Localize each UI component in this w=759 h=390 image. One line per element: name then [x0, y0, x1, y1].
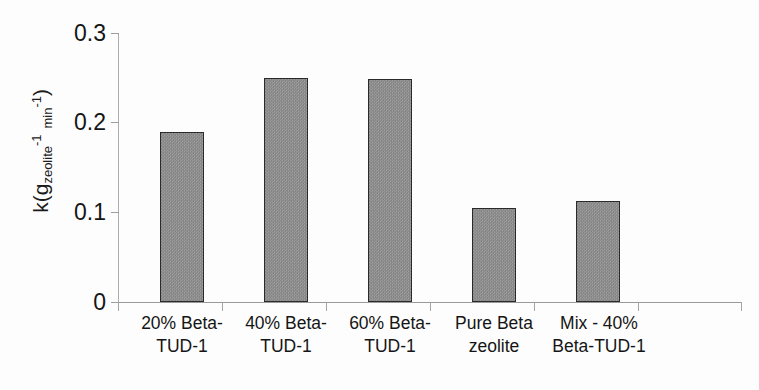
- y-axis-label-lead: k(g: [29, 184, 52, 213]
- x-category-label-0-line-1: TUD-1: [126, 335, 238, 358]
- y-tick-label-3: 0: [52, 289, 106, 316]
- x-tick-mark-0: [118, 302, 119, 311]
- x-tick-mark-6: [741, 302, 742, 311]
- x-category-label-1-line-0: 40% Beta-: [230, 312, 342, 335]
- y-axis-label-sup-neg1-a: -1: [29, 135, 44, 147]
- x-tick-mark-3: [430, 302, 431, 311]
- x-category-label-2-line-1: TUD-1: [334, 335, 446, 358]
- chart-figure: k(gzeolite-1 min-1) 0.3 0.2 0.1 0 20% Be…: [0, 0, 759, 390]
- x-category-label-4: Mix - 40% Beta-TUD-1: [538, 312, 660, 358]
- x-axis-category-labels: 20% Beta- TUD-1 40% Beta- TUD-1 60% Beta…: [118, 312, 742, 382]
- x-tick-mark-5: [638, 302, 639, 311]
- x-tick-mark-2: [326, 302, 327, 311]
- y-tick-label-0: 0.3: [52, 20, 106, 47]
- x-category-label-3-line-1: zeolite: [438, 335, 550, 358]
- y-tick-label-1: 0.2: [52, 109, 106, 136]
- y-tick-mark-1: [111, 122, 119, 123]
- x-category-label-4-line-0: Mix - 40%: [538, 312, 660, 335]
- bar-2: [368, 79, 412, 302]
- y-axis-spine: [118, 33, 119, 302]
- bar-0: [160, 132, 204, 302]
- y-tick-label-2: 0.1: [52, 199, 106, 226]
- y-axis-label: k(gzeolite-1 min-1): [30, 89, 54, 213]
- x-category-label-1: 40% Beta- TUD-1: [230, 312, 342, 358]
- x-category-label-0: 20% Beta- TUD-1: [126, 312, 238, 358]
- x-category-label-0-line-0: 20% Beta-: [126, 312, 238, 335]
- y-axis-tick-labels: 0.3 0.2 0.1 0: [52, 0, 106, 390]
- x-tick-mark-1: [222, 302, 223, 311]
- x-tick-mark-4: [534, 302, 535, 311]
- y-axis-label-tail: ): [29, 89, 52, 96]
- plot-area: [118, 33, 742, 302]
- y-tick-mark-0: [111, 33, 119, 34]
- x-category-label-1-line-1: TUD-1: [230, 335, 342, 358]
- bar-3: [472, 208, 516, 302]
- x-category-label-2: 60% Beta- TUD-1: [334, 312, 446, 358]
- x-category-label-3-line-0: Pure Beta: [438, 312, 550, 335]
- x-category-label-2-line-0: 60% Beta-: [334, 312, 446, 335]
- y-axis-label-sup-neg1-b: -1: [29, 96, 44, 108]
- x-category-label-4-line-1: Beta-TUD-1: [538, 335, 660, 358]
- bar-4: [576, 201, 620, 302]
- bar-1: [264, 78, 308, 302]
- x-category-label-3: Pure Beta zeolite: [438, 312, 550, 358]
- y-tick-mark-2: [111, 212, 119, 213]
- x-axis-spine: [112, 302, 742, 303]
